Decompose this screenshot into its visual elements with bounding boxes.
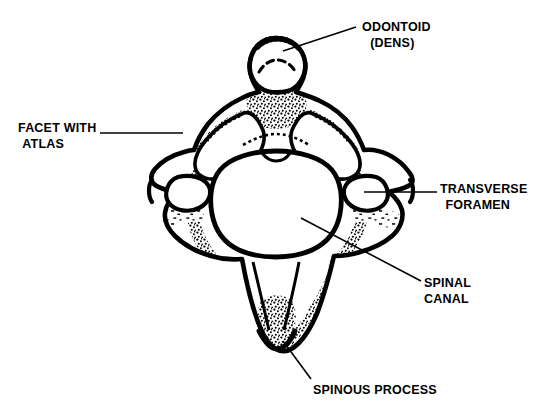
- anatomy-figure: ODONTOID(DENS) FACET WITHATLAS TRANSVERS…: [0, 0, 551, 414]
- vertebra-body-group: [149, 38, 413, 351]
- label-odontoid-line2: (DENS): [362, 35, 431, 51]
- label-odontoid-dens: ODONTOID(DENS): [362, 19, 431, 51]
- label-spinal-canal: SPINALCANAL: [424, 275, 471, 307]
- label-transverse-line1: TRANSVERSE: [440, 182, 527, 196]
- label-spinal-line1: SPINAL: [424, 276, 471, 290]
- label-spinous-line1: SPINOUS PROCESS: [313, 383, 437, 397]
- transverse-foramen-right-outline: [344, 176, 388, 211]
- label-odontoid-line1: ODONTOID: [362, 20, 431, 34]
- transverse-foramen-left: [166, 176, 210, 211]
- transverse-foramen-left-outline: [166, 176, 210, 211]
- label-facet-with-atlas: FACET WITHATLAS: [18, 120, 96, 152]
- vertebral-foramen: [211, 151, 342, 257]
- label-spinous-process: SPINOUS PROCESS: [313, 382, 437, 398]
- label-facet-line2: ATLAS: [18, 136, 96, 152]
- label-transverse-line2: FORAMEN: [440, 197, 527, 213]
- transverse-foramen-right: [344, 176, 388, 211]
- transverse-process-right-tip: [410, 180, 413, 202]
- leader-odontoid: [283, 27, 356, 51]
- label-spinal-line2: CANAL: [424, 291, 471, 307]
- transverse-process-left-tip: [149, 180, 152, 202]
- label-facet-line1: FACET WITH: [18, 121, 96, 135]
- spinal-canal-outline: [211, 151, 342, 257]
- label-transverse-foramen: TRANSVERSEFORAMEN: [440, 181, 527, 213]
